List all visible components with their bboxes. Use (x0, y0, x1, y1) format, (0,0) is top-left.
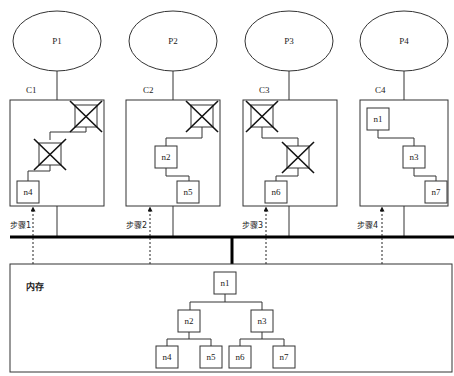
cache-bus-links (57, 206, 404, 236)
processor-p1: P1 (13, 11, 101, 71)
cache-node-n1: n1 (367, 108, 389, 130)
processor-cache-links (57, 71, 404, 100)
memory-node-n5: n5 (200, 346, 222, 368)
svg-text:n1: n1 (374, 114, 383, 124)
cache-node-crossed (70, 101, 102, 132)
svg-text:n6: n6 (236, 352, 246, 362)
processor-p3: P3 (245, 11, 333, 71)
step-3-label: 步骤3 (242, 221, 263, 230)
svg-text:n2: n2 (162, 152, 171, 162)
processor-p1-label: P1 (52, 36, 62, 46)
processor-p3-label: P3 (284, 36, 294, 46)
cache-node-n3: n3 (403, 146, 425, 168)
svg-text:n1: n1 (221, 278, 230, 288)
memory-node-n2: n2 (178, 310, 200, 332)
cache-node-crossed (186, 101, 218, 132)
svg-text:n5: n5 (207, 352, 217, 362)
processor-p2: P2 (129, 11, 217, 71)
memory-node-n7: n7 (273, 346, 295, 368)
memory-node-n3: n3 (251, 310, 273, 332)
cache-node-n5: n5 (177, 181, 199, 203)
svg-text:n7: n7 (432, 187, 442, 197)
svg-text:n4: n4 (163, 352, 173, 362)
cache-c2-label: C2 (143, 85, 154, 95)
memory-node-n6: n6 (229, 346, 251, 368)
svg-text:n3: n3 (258, 316, 268, 326)
cache-c4-label: C4 (375, 85, 386, 95)
memory-box: 内存 n1 n2 n3 (10, 264, 452, 372)
cache-c3-label: C3 (259, 85, 270, 95)
cache-node-n7: n7 (425, 181, 447, 203)
cache-c3: n6 (243, 100, 337, 206)
step-2-label: 步骤2 (126, 221, 147, 230)
svg-text:n4: n4 (24, 187, 34, 197)
processor-p2-label: P2 (168, 36, 178, 46)
cache-c4: n1 n3 n7 (360, 100, 448, 206)
memory-label: 内存 (26, 281, 44, 292)
cache-node-crossed (246, 101, 278, 132)
cache-c1: n4 (10, 100, 104, 206)
svg-text:n5: n5 (184, 187, 194, 197)
step-1-label: 步骤1 (10, 221, 31, 230)
cache-node-n6: n6 (265, 181, 287, 203)
step-4-label: 步骤4 (357, 221, 378, 230)
processor-p4: P4 (360, 11, 448, 71)
cache-c1-label: C1 (26, 85, 37, 95)
cache-node-n2: n2 (155, 146, 177, 168)
memory-node-n4: n4 (156, 346, 178, 368)
svg-text:n2: n2 (185, 316, 194, 326)
cache-node-n4: n4 (17, 181, 39, 203)
memory-node-n1: n1 (214, 272, 236, 294)
svg-text:n7: n7 (280, 352, 290, 362)
svg-text:n6: n6 (272, 187, 282, 197)
processor-p4-label: P4 (399, 36, 409, 46)
cache-node-crossed (282, 142, 314, 173)
memory-cache-diagram: P1 P2 P3 P4 C1 C2 C3 C4 (0, 0, 454, 376)
cache-node-crossed (34, 139, 66, 170)
cache-c2: n2 n5 (126, 100, 220, 206)
svg-text:n3: n3 (410, 152, 420, 162)
